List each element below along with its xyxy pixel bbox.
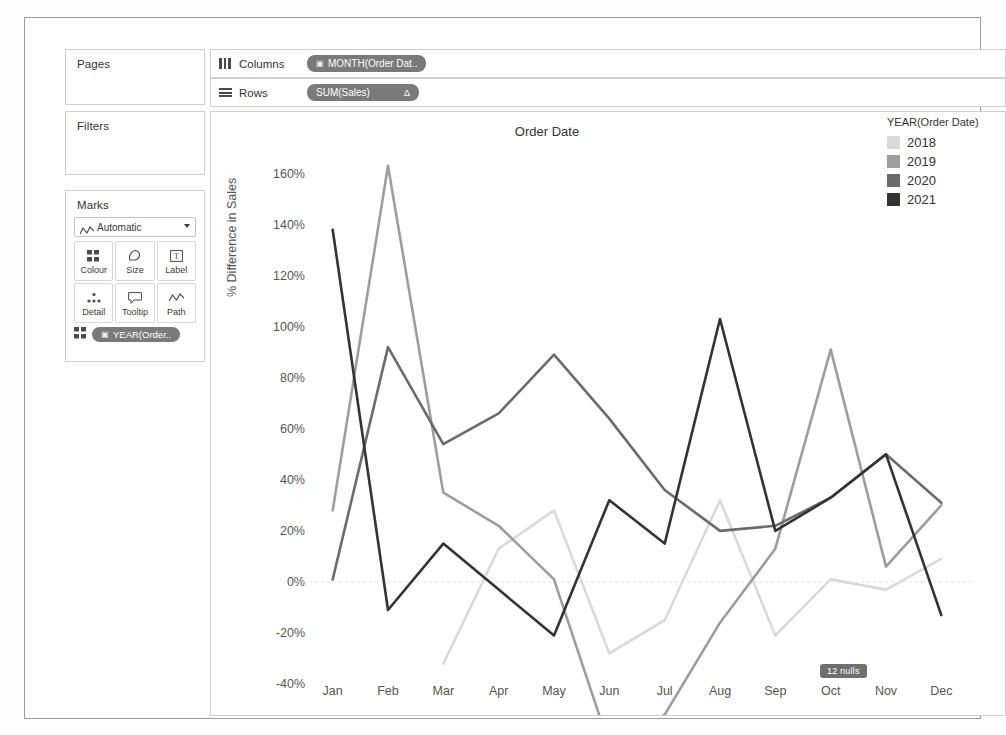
marks-label-label: Label — [165, 265, 187, 275]
label-icon: T — [170, 248, 183, 264]
columns-shelf[interactable]: Columns ▣ MONTH(Order Dat.. — [210, 49, 1006, 78]
svg-text:T: T — [174, 252, 179, 261]
marks-buttons-grid: Colour Size T Label — [74, 241, 196, 323]
columns-icon — [219, 58, 232, 69]
colour-legend[interactable]: YEAR(Order Date) 2018201920202021 — [887, 116, 1005, 211]
colour-icon — [87, 248, 100, 264]
pages-card-title: Pages — [77, 58, 110, 70]
mark-type-label: Automatic — [97, 222, 141, 233]
legend-label: 2018 — [907, 135, 936, 150]
mark-type-select[interactable]: Automatic — [74, 217, 196, 237]
path-icon — [169, 290, 184, 306]
marks-size-button[interactable]: Size — [115, 241, 154, 281]
columns-pill[interactable]: ▣ MONTH(Order Dat.. — [307, 55, 426, 72]
plot-area[interactable] — [211, 112, 1005, 715]
rows-icon — [219, 88, 232, 97]
marks-card-title: Marks — [77, 199, 109, 211]
rows-pill-label: SUM(Sales) — [316, 87, 370, 98]
marks-colour-pill-row: ▣ YEAR(Order.. — [74, 325, 180, 343]
rows-shelf-label: Rows — [239, 87, 297, 99]
colour-icon — [74, 325, 87, 343]
calendar-icon: ▣ — [316, 59, 324, 68]
tooltip-icon — [128, 290, 142, 306]
line-icon — [80, 222, 94, 232]
legend-swatch — [887, 136, 900, 149]
series-line-2019[interactable] — [333, 166, 942, 715]
marks-colour-label: Colour — [80, 265, 107, 275]
legend-swatch — [887, 155, 900, 168]
marks-year-pill[interactable]: ▣ YEAR(Order.. — [92, 327, 180, 342]
legend-item-2018[interactable]: 2018 — [887, 135, 1005, 150]
worksheet-frame: Pages Filters Marks Automatic — [24, 17, 981, 719]
marks-size-label: Size — [126, 265, 144, 275]
pages-card[interactable]: Pages — [65, 49, 205, 105]
rows-pill[interactable]: SUM(Sales) Δ — [307, 84, 419, 101]
legend-swatch — [887, 174, 900, 187]
legend-items: 2018201920202021 — [887, 135, 1005, 207]
marks-card[interactable]: Marks Automatic Colour — [65, 190, 205, 362]
series-line-2021[interactable] — [333, 230, 942, 636]
marks-year-pill-label: YEAR(Order.. — [113, 329, 171, 340]
columns-pill-label: MONTH(Order Dat.. — [328, 58, 417, 69]
nulls-indicator[interactable]: 12 nulls — [820, 664, 867, 678]
marks-path-button[interactable]: Path — [157, 283, 196, 323]
rows-shelf[interactable]: Rows SUM(Sales) Δ — [210, 78, 1006, 107]
columns-shelf-label: Columns — [239, 58, 297, 70]
legend-label: 2019 — [907, 154, 936, 169]
marks-label-button[interactable]: T Label — [157, 241, 196, 281]
marks-colour-button[interactable]: Colour — [74, 241, 113, 281]
legend-item-2021[interactable]: 2021 — [887, 192, 1005, 207]
chevron-down-icon[interactable] — [184, 224, 190, 228]
quick-table-calc-icon: Δ — [404, 88, 410, 98]
legend-item-2019[interactable]: 2019 — [887, 154, 1005, 169]
filters-card-title: Filters — [77, 120, 109, 132]
legend-item-2020[interactable]: 2020 — [887, 173, 1005, 188]
legend-label: 2020 — [907, 173, 936, 188]
marks-tooltip-label: Tooltip — [122, 307, 148, 317]
marks-tooltip-button[interactable]: Tooltip — [115, 283, 154, 323]
marks-path-label: Path — [167, 307, 186, 317]
series-line-2018[interactable] — [443, 500, 941, 663]
legend-label: 2021 — [907, 192, 936, 207]
legend-swatch — [887, 193, 900, 206]
filters-card[interactable]: Filters — [65, 111, 205, 175]
marks-detail-label: Detail — [82, 307, 105, 317]
legend-title: YEAR(Order Date) — [887, 116, 1005, 128]
size-icon — [128, 248, 142, 264]
marks-detail-button[interactable]: Detail — [74, 283, 113, 323]
chart-lines — [211, 112, 1005, 715]
detail-icon — [87, 290, 101, 306]
calendar-icon: ▣ — [101, 330, 109, 339]
